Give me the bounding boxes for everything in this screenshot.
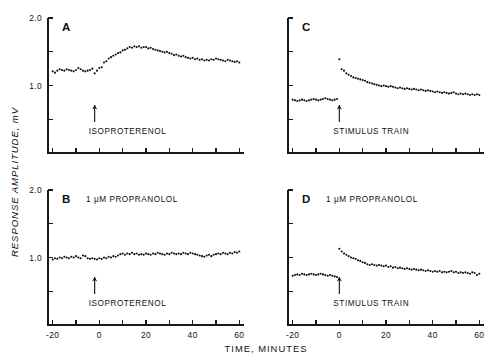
data-point (327, 98, 329, 100)
data-point (238, 250, 240, 252)
data-point (418, 89, 420, 91)
data-point (331, 275, 333, 277)
data-point (341, 68, 343, 70)
data-point (173, 252, 175, 254)
panel-letter-c: C (302, 21, 311, 33)
data-point (122, 252, 124, 254)
data-point (203, 59, 205, 61)
data-point (460, 93, 462, 95)
data-point (434, 91, 436, 93)
data-point (317, 99, 319, 101)
data-point (206, 254, 208, 256)
data-point (56, 70, 58, 72)
data-point (70, 256, 72, 258)
data-point (171, 53, 173, 55)
data-point (478, 94, 480, 96)
data-point (213, 254, 215, 256)
data-point (320, 99, 322, 101)
data-point (439, 270, 441, 272)
data-point (54, 72, 56, 74)
data-point (159, 50, 161, 52)
data-point (334, 275, 336, 277)
data-point (152, 252, 154, 254)
data-point (436, 91, 438, 93)
data-point (310, 99, 312, 101)
data-point (357, 259, 359, 261)
data-point (126, 252, 128, 254)
y-tick-label: 1.0 (29, 81, 42, 91)
data-point (299, 274, 301, 276)
data-point (467, 93, 469, 95)
data-point (61, 257, 63, 259)
data-point (383, 84, 385, 86)
data-point (345, 72, 347, 74)
data-point (429, 90, 431, 92)
data-point (329, 99, 331, 101)
data-point (54, 257, 56, 259)
data-point (406, 87, 408, 89)
data-point (373, 83, 375, 85)
data-point (222, 252, 224, 254)
panel-letter-a: A (62, 21, 71, 33)
data-point (182, 252, 184, 254)
data-point (352, 257, 354, 259)
data-point (77, 67, 79, 69)
data-point (350, 75, 352, 77)
data-point (82, 70, 84, 72)
data-point (401, 87, 403, 89)
x-tick-label: 0 (337, 330, 342, 340)
data-point (422, 89, 424, 91)
y-tick-label: 1.0 (29, 253, 42, 263)
data-point (59, 256, 61, 258)
data-point (213, 59, 215, 61)
data-point (306, 100, 308, 102)
data-point (234, 251, 236, 253)
data-point (303, 99, 305, 101)
data-point (378, 264, 380, 266)
data-point (152, 48, 154, 50)
data-point (185, 252, 187, 254)
data-point (329, 274, 331, 276)
data-point (140, 253, 142, 255)
data-point (385, 85, 387, 87)
data-point (115, 53, 117, 55)
data-point (376, 265, 378, 267)
data-point (313, 98, 315, 100)
data-point (136, 252, 138, 254)
data-point (66, 256, 68, 258)
data-point (408, 268, 410, 270)
data-point (94, 72, 96, 74)
data-point (317, 273, 319, 275)
data-point (227, 59, 229, 61)
data-point (129, 253, 131, 255)
data-point (397, 87, 399, 89)
panel-d: -200204060D1 μM PROPRANOLOLSTIMULUS TRAI… (286, 190, 484, 340)
data-point (294, 274, 296, 276)
data-point (61, 69, 63, 71)
data-point (150, 254, 152, 256)
data-point (415, 89, 417, 91)
data-point (105, 60, 107, 62)
data-point (96, 70, 98, 72)
data-point (80, 257, 82, 259)
panel-b: 1.02.0-200204060B1 μM PROPRANOLOLISOPROT… (29, 185, 244, 340)
data-point (199, 254, 201, 256)
data-point (322, 273, 324, 275)
data-point (145, 252, 147, 254)
data-point (457, 93, 459, 95)
data-point (364, 80, 366, 82)
data-point (124, 49, 126, 51)
data-point (147, 253, 149, 255)
data-point (166, 252, 168, 254)
data-point (157, 49, 159, 51)
panel-condition-label: 1 μM PROPRANOLOL (86, 195, 178, 204)
data-point (436, 271, 438, 273)
data-point (476, 93, 478, 95)
data-point (420, 89, 422, 91)
data-point (448, 93, 450, 95)
data-point (371, 263, 373, 265)
data-point (166, 51, 168, 53)
data-point (108, 256, 110, 258)
data-point (334, 99, 336, 101)
data-point (369, 82, 371, 84)
